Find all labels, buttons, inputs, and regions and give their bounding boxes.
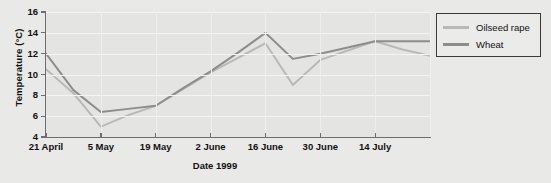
gridline [46, 12, 430, 13]
gridline [46, 116, 430, 117]
y-axis-tick [41, 136, 45, 137]
vertical-gridline [320, 12, 321, 137]
chart-figure: Temperature (°C) 46810121416 21 April5 M… [0, 0, 551, 183]
legend-item-wheat: Wheat [443, 36, 534, 53]
y-axis-tick [41, 53, 45, 54]
x-axis-tick-label: 5 May [88, 141, 114, 152]
vertical-gridline [211, 12, 212, 137]
y-axis-tick [41, 11, 45, 12]
x-axis-tick [265, 133, 266, 138]
legend-item-oilseed-rape: Oilseed rape [443, 19, 534, 36]
vertical-gridline [101, 12, 102, 137]
x-axis-tick [100, 133, 101, 138]
x-axis-line [45, 137, 431, 138]
x-axis-tick-label: 16 June [248, 141, 283, 152]
y-axis-tick [41, 116, 45, 117]
x-axis-tick [375, 133, 376, 138]
x-axis-tick [210, 133, 211, 138]
x-axis-tick-label: 19 May [140, 141, 172, 152]
y-axis-tick [41, 74, 45, 75]
legend-swatch-wheat [443, 43, 469, 46]
legend-label-oilseed-rape: Oilseed rape [476, 22, 530, 33]
y-axis-tick [41, 32, 45, 33]
y-axis-line [45, 11, 46, 138]
y-axis-tick-label: 14 [12, 27, 38, 38]
y-axis-tick-label: 8 [12, 89, 38, 100]
x-axis-tick-label: 14 July [359, 141, 391, 152]
gridline [46, 75, 430, 76]
gridline [46, 33, 430, 34]
vertical-gridline [156, 12, 157, 137]
x-axis-tick [320, 133, 321, 138]
y-axis-tick-label: 10 [12, 69, 38, 80]
legend-swatch-oilseed-rape [443, 26, 469, 29]
legend-label-wheat: Wheat [476, 39, 503, 50]
x-axis-tick-label: 30 June [303, 141, 338, 152]
vertical-gridline [375, 12, 376, 137]
x-axis-tick [155, 133, 156, 138]
vertical-gridline [265, 12, 266, 137]
line-series-wheat [46, 33, 430, 112]
x-axis-tick-label: 2 June [196, 141, 226, 152]
y-axis-tick-label: 6 [12, 110, 38, 121]
gridline [46, 54, 430, 55]
gridline [46, 95, 430, 96]
y-axis-tick-label: 12 [12, 48, 38, 59]
y-axis-tick [41, 95, 45, 96]
y-axis-tick-label: 16 [12, 6, 38, 17]
vertical-gridline [430, 12, 431, 137]
plot-area [46, 12, 430, 137]
x-axis-tick [45, 133, 46, 138]
chart-legend: Oilseed rape Wheat [436, 13, 541, 57]
x-axis-tick-label: 21 April [29, 141, 64, 152]
x-axis-title: Date 1999 [0, 160, 430, 171]
